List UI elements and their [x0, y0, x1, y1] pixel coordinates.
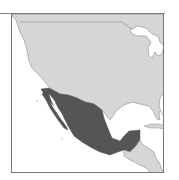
map-frame [11, 13, 164, 173]
locator-map [12, 14, 164, 173]
cuba [144, 124, 164, 129]
island [36, 100, 37, 101]
island [61, 138, 62, 139]
